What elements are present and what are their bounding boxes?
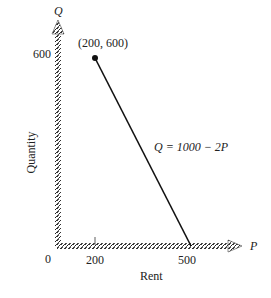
equation-label: Q = 1000 − 2P — [154, 140, 228, 155]
origin-label: 0 — [45, 252, 51, 267]
point-200-600 — [92, 55, 98, 61]
y-tick-600: 600 — [33, 47, 51, 62]
y-axis-label: Quantity — [24, 132, 39, 174]
y-axis — [55, 28, 61, 247]
point-label: (200, 600) — [78, 36, 128, 51]
x-tick-200-label: 200 — [86, 253, 104, 268]
x-tick-500-label: 500 — [178, 253, 196, 268]
y-axis-arrow-icon — [52, 20, 64, 34]
x-axis — [57, 243, 233, 249]
x-axis-label: Rent — [140, 269, 163, 284]
x-axis-symbol: P — [250, 239, 257, 254]
y-axis-symbol: Q — [54, 4, 63, 19]
x-axis-arrow-icon — [228, 240, 242, 252]
chart-canvas — [0, 0, 271, 298]
